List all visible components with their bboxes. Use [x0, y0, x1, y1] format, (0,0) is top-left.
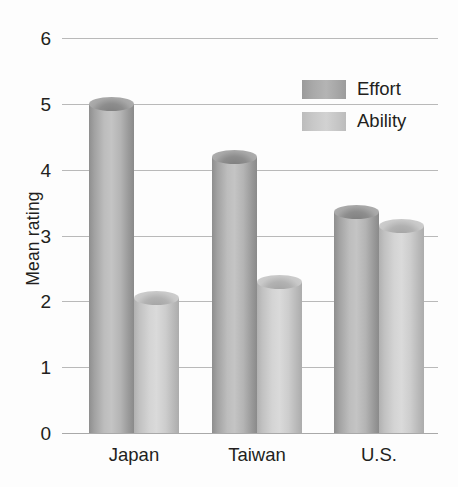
bar-us-effort — [334, 205, 379, 433]
x-tick-label-us: U.S. — [361, 444, 397, 466]
y-tick-label-2: 2 — [40, 292, 51, 311]
bar-japan-ability — [134, 291, 179, 433]
bar-cap — [379, 219, 424, 233]
bar-chart: Mean rating 0123456 JapanTaiwanU.S. Effo… — [0, 0, 458, 487]
legend-item-effort: Effort — [302, 76, 406, 102]
bar-body — [212, 157, 257, 434]
bar-body — [134, 298, 179, 433]
bar-body — [334, 212, 379, 433]
bar-cap — [89, 97, 134, 111]
legend-swatch-effort — [302, 80, 346, 99]
bar-japan-effort — [89, 97, 134, 433]
y-tick-label-5: 5 — [40, 94, 51, 113]
legend-item-ability: Ability — [302, 108, 406, 134]
bar-cap — [257, 275, 302, 289]
legend-label-ability: Ability — [357, 110, 406, 132]
bar-us-ability — [379, 219, 424, 433]
legend-label-effort: Effort — [357, 78, 401, 100]
bar-taiwan-effort — [212, 150, 257, 434]
x-tick-label-japan: Japan — [109, 444, 159, 466]
gridline-0 — [62, 433, 438, 434]
bar-taiwan-ability — [257, 275, 302, 433]
bar-body — [379, 226, 424, 433]
bar-cap — [134, 291, 179, 305]
y-tick-label-0: 0 — [40, 424, 51, 443]
bar-body — [257, 282, 302, 433]
y-tick-label-4: 4 — [40, 160, 51, 179]
y-tick-label-1: 1 — [40, 358, 51, 377]
legend-swatch-ability — [302, 112, 346, 131]
y-tick-label-6: 6 — [40, 29, 51, 48]
bar-body — [89, 104, 134, 433]
x-tick-label-taiwan: Taiwan — [228, 444, 286, 466]
legend: Effort Ability — [302, 76, 406, 140]
y-tick-label-3: 3 — [40, 226, 51, 245]
bar-cap — [212, 150, 257, 164]
